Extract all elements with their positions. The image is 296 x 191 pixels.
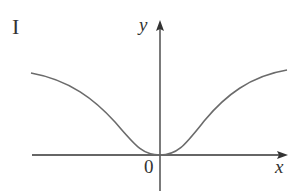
y-axis-label: y <box>139 14 147 36</box>
x-axis-label: x <box>275 156 283 178</box>
panel-label: I <box>12 14 19 40</box>
function-curve <box>31 70 287 155</box>
origin-label: 0 <box>144 156 154 178</box>
